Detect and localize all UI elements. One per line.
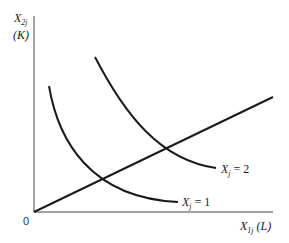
- x-axis-label: X1j (L): [240, 220, 271, 235]
- isoquant-1-subscript: j: [189, 202, 191, 211]
- isoquant-curve-2: [95, 57, 216, 168]
- isoquant-2-value: = 2: [234, 162, 250, 176]
- origin-label: 0: [23, 215, 29, 227]
- y-axis-unit-text: (K): [13, 28, 29, 42]
- isoquant-1-value: = 1: [195, 195, 211, 209]
- y-axis-label: X2j: [14, 12, 28, 27]
- y-axis-subscript: 2j: [21, 18, 27, 27]
- x-axis-subscript: 1j: [247, 226, 253, 235]
- x-axis-unit: (L): [257, 219, 272, 233]
- isoquant-2-subscript: j: [228, 169, 230, 178]
- isoquant-1-label: Xj = 1: [182, 196, 210, 211]
- expansion-path-ray: [34, 97, 273, 212]
- y-axis-unit: (K): [13, 29, 29, 41]
- diagram-canvas: [0, 0, 289, 243]
- isoquant-2-label: Xj = 2: [221, 163, 249, 178]
